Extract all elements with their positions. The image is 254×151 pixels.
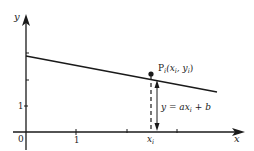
x-axis-label: x (234, 133, 240, 144)
origin-label: 0 (18, 134, 24, 144)
xi-label: xi (147, 134, 154, 146)
y-axis (22, 14, 30, 150)
equation-label: y = axi + b (160, 102, 211, 114)
distance-arrow (155, 80, 160, 131)
y-tick-label: 1 (18, 101, 23, 111)
x-axis (13, 128, 245, 136)
arrow-down-icon (155, 123, 160, 131)
point-label: Pi(xi, yi) (158, 63, 193, 75)
data-point (148, 71, 153, 76)
regression-diagram: y x 0 1 1 Pi(xi, yi) y = axi + b xi (0, 0, 254, 151)
y-axis-label: y (13, 11, 20, 22)
x-tick-label: 1 (74, 135, 79, 145)
